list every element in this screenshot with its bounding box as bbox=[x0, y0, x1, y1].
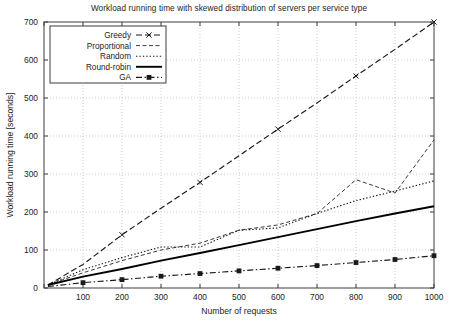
x-tick-100: 100 bbox=[76, 292, 90, 302]
x-tick-200: 200 bbox=[115, 292, 129, 302]
x-tick-800: 800 bbox=[349, 292, 363, 302]
legend-label-proportional: Proportional bbox=[87, 42, 131, 51]
y-axis-label: Workload running time [seconds] bbox=[5, 93, 15, 218]
x-axis-label: Number of requests bbox=[201, 306, 276, 316]
legend-label-random: Random bbox=[100, 52, 131, 61]
legend-label-round-robin: Round-robin bbox=[86, 63, 132, 72]
y-tick-100: 100 bbox=[24, 245, 38, 255]
y-tick-600: 600 bbox=[24, 55, 38, 65]
x-tick-600: 600 bbox=[271, 292, 285, 302]
x-tick-700: 700 bbox=[310, 292, 324, 302]
x-tick-500: 500 bbox=[232, 292, 246, 302]
plot-area: 0100200300400500600700 10020030040050060… bbox=[0, 0, 458, 328]
x-tick-900: 900 bbox=[388, 292, 402, 302]
y-tick-700: 700 bbox=[24, 17, 38, 27]
legend-label-ga: GA bbox=[119, 73, 131, 82]
y-tick-200: 200 bbox=[24, 207, 38, 217]
x-tick-400: 400 bbox=[193, 292, 207, 302]
legend-label-greedy: Greedy bbox=[104, 31, 132, 40]
x-tick-300: 300 bbox=[154, 292, 168, 302]
y-tick-400: 400 bbox=[24, 131, 38, 141]
chart-legend: GreedyProportionalRandomRound-robinGA bbox=[50, 26, 166, 83]
y-tick-300: 300 bbox=[24, 169, 38, 179]
y-tick-500: 500 bbox=[24, 93, 38, 103]
x-axis-tick-labels: 1002003004005006007008009001000 bbox=[76, 292, 444, 302]
series-ga bbox=[48, 253, 437, 286]
y-axis-tick-labels: 0100200300400500600700 bbox=[24, 17, 38, 293]
x-tick-1000: 1000 bbox=[425, 292, 444, 302]
y-tick-0: 0 bbox=[33, 283, 38, 293]
chart-figure: Workload running time with skewed distri… bbox=[0, 0, 458, 328]
